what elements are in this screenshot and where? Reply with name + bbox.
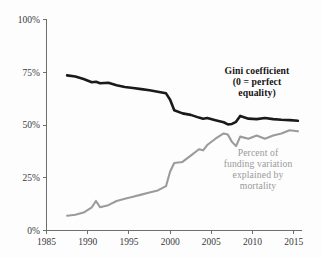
annotation-mortality-line-3: explained by (198, 170, 318, 181)
annotation-gini-coefficient: Gini coefficient (0 = perfect equality) (196, 66, 318, 99)
y-axis-ticks: 0%25%50%75%100% (18, 15, 47, 236)
annotation-gini-line-3: equality) (196, 88, 318, 99)
y-axis: 0%25%50%75%100% (18, 15, 47, 236)
x-axis: 1985199019952000200520102015 (37, 231, 304, 247)
y-tick-label: 25% (23, 173, 41, 183)
x-tick-label: 2005 (202, 237, 221, 247)
x-tick-label: 1985 (37, 237, 56, 247)
x-tick-label: 1995 (119, 237, 138, 247)
x-tick-label: 1990 (78, 237, 97, 247)
chart-plot-area: 0%25%50%75%100% 198519901995200020052010… (0, 0, 322, 257)
x-tick-label: 2010 (243, 237, 262, 247)
x-tick-label: 2000 (161, 237, 180, 247)
x-axis-ticks: 1985199019952000200520102015 (37, 231, 304, 247)
y-tick-label: 100% (18, 15, 40, 25)
chart-figure: 0%25%50%75%100% 198519901995200020052010… (0, 0, 322, 257)
annotation-mortality-line-4: mortality (198, 181, 318, 192)
annotation-funding-variation: Percent of funding variation explained b… (198, 148, 318, 191)
y-tick-label: 0% (27, 226, 40, 236)
y-tick-label: 75% (23, 68, 41, 78)
y-tick-label: 50% (23, 120, 41, 130)
x-tick-label: 2015 (284, 237, 303, 247)
